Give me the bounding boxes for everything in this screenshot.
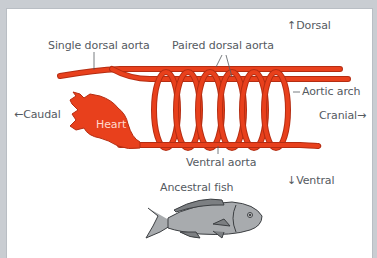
label-ventral: ↓Ventral [287,174,334,187]
arrow-up-icon: ↑ [287,19,296,32]
arrow-down-icon: ↓ [287,174,296,187]
label-dorsal: ↑Dorsal [287,19,331,32]
arrow-left-icon: ← [14,108,23,121]
label-heart: Heart [96,118,126,131]
arrow-right-icon: → [357,109,366,122]
label-ancestral-fish: Ancestral fish [160,181,233,194]
label-single-dorsal-aorta: Single dorsal aorta [48,39,150,52]
fish-illustration [146,199,262,238]
label-paired-dorsal-aorta: Paired dorsal aorta [172,39,274,52]
label-caudal: ←Caudal [14,108,61,121]
label-cranial: Cranial→ [319,109,366,122]
aortic-arches [154,72,288,148]
label-ventral-aorta: Ventral aorta [186,156,256,169]
label-aortic-arch: Aortic arch [302,85,360,98]
